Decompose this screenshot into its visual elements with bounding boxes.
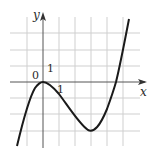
axes <box>10 15 145 148</box>
x-axis-label: x <box>140 85 147 99</box>
x-tick-label: 1 <box>57 83 64 96</box>
origin-label: 0 <box>32 69 39 82</box>
y-axis-label: y <box>32 8 40 22</box>
y-tick-label: 1 <box>47 62 54 75</box>
function-graph: y x 0 1 1 <box>0 0 155 151</box>
